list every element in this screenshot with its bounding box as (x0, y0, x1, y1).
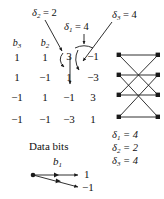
cell-b2-row3: 1 (34, 92, 56, 103)
delta1-leader-arrow (75, 34, 93, 48)
cell-c3-row4: −3 (58, 114, 80, 125)
column-header-b3: b3 (6, 38, 28, 50)
cell-c4-row4: 1 (82, 114, 104, 125)
delta2-value: 2 (52, 7, 57, 18)
delta3-annotation: δ3 = 4 (112, 10, 137, 22)
delta1-value: 4 (84, 21, 89, 32)
legend-delta2-value: 2 (133, 142, 138, 153)
delta1-annotation: δ1 = 4 (64, 22, 89, 34)
legend-delta2: δ2 = 2 (112, 143, 138, 155)
data-bits-fanout (31, 173, 78, 187)
cell-b3-row4: −1 (6, 114, 28, 125)
b2-subscript: 2 (46, 42, 50, 50)
cell-b3-row3: −1 (6, 92, 28, 103)
legend-delta1-value: 4 (133, 129, 138, 140)
network-right-nodes (156, 53, 160, 119)
legend-delta1-equals: = (120, 129, 132, 140)
cell-c4-row2: −3 (82, 72, 104, 83)
b3-subscript: 3 (18, 42, 22, 50)
legend-delta3-equals: = (120, 155, 132, 166)
data-bit-output-top: 1 (84, 169, 100, 180)
data-bit-b1-label: b1 (53, 156, 62, 169)
delta3-value: 4 (132, 9, 137, 20)
legend-delta2-equals: = (120, 142, 132, 153)
b1-subscript: 1 (59, 161, 63, 169)
cell-b2-row2: −1 (34, 72, 56, 83)
butterfly-network (117, 53, 160, 119)
cell-c3-row1: 3 (58, 51, 80, 62)
cell-c4-row3: 3 (82, 92, 104, 103)
cell-c3-row2: 1 (58, 72, 80, 83)
legend-delta3: δ3 = 4 (112, 156, 138, 168)
cell-b2-row4: −1 (34, 114, 56, 125)
delta1-equals: = (72, 21, 83, 32)
legend-delta3-value: 4 (133, 155, 138, 166)
cell-c4-row1: −1 (82, 51, 104, 62)
cell-b3-row2: 1 (6, 72, 28, 83)
delta2-annotation: δ2 = 2 (32, 8, 57, 20)
network-left-nodes (117, 53, 121, 119)
delta2-equals: = (40, 7, 51, 18)
cell-b3-row1: 1 (6, 52, 28, 63)
constellation-mapping-figure: δ2 = 2 δ1 = 4 δ3 = 4 b3 b2 1 1 −1 −1 1 −… (0, 0, 164, 199)
data-bits-caption: Data bits (29, 141, 68, 152)
delta3-equals: = (120, 9, 131, 20)
cell-c3-row3: −1 (58, 92, 80, 103)
legend-delta1: δ1 = 4 (112, 130, 138, 142)
data-bit-output-bottom: −1 (82, 182, 102, 193)
cell-b2-row1: 1 (34, 52, 56, 63)
column-header-b2: b2 (34, 38, 56, 50)
